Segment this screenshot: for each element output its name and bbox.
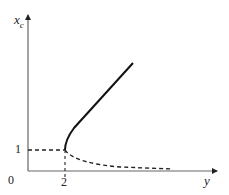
origin-label: 0 — [8, 174, 14, 186]
bifurcation-chart — [0, 0, 229, 195]
x-axis-label: y — [204, 174, 210, 187]
y-tick-label-1: 1 — [15, 143, 21, 155]
y-axis-label-sub: c — [20, 20, 24, 30]
y-axis-label: xc — [14, 13, 24, 30]
x-tick-label-2: 2 — [61, 176, 67, 188]
stable-branch-curve — [65, 63, 133, 150]
unstable-branch-curve — [65, 150, 173, 169]
